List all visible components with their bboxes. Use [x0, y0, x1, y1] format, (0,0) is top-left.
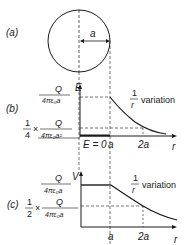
panel-c-label: (c) [7, 199, 19, 210]
x-tick-a-b: a [108, 139, 114, 150]
v-low-den: 4πε₀a [45, 211, 64, 218]
x-tick-2a-b: 2a [137, 139, 150, 150]
panel-b-label: (b) [6, 103, 18, 114]
v-curve [111, 185, 177, 220]
annot-c-num: 1 [133, 173, 138, 183]
v-low-prefix-den: 2 [27, 209, 32, 219]
e-low-prefix-num: 1 [25, 118, 30, 128]
annot-b-num: 1 [132, 88, 137, 98]
r-axis-arrow-c-icon [172, 225, 177, 229]
v-top-den: 4πε₀a [44, 187, 63, 194]
v-low-num: Q [56, 197, 63, 207]
radius-label: a [90, 28, 96, 39]
annot-c-text: variation [142, 180, 176, 190]
v-low-prefix-num: 1 [27, 197, 32, 207]
annot-b-text: variation [141, 95, 175, 105]
panel-a-label: (a) [6, 27, 18, 38]
panel-c: V r (c) Q 4πε₀a 1 2 × Q 4πε₀a a 2a 1 r v… [7, 171, 178, 245]
r-axis-label-c: r [174, 234, 178, 245]
v-axis-label: V [72, 171, 80, 182]
e-top-num: Q [55, 84, 62, 94]
e-top-den: 4πε₀a [42, 97, 61, 104]
v-axis-arrow-icon [79, 171, 83, 176]
v-top-num: Q [55, 173, 62, 183]
e-axis-label: E [75, 82, 82, 93]
v-low-times: × [35, 203, 40, 213]
e-low-den: 4πε₀a² [41, 132, 63, 139]
e-low-times: × [33, 124, 38, 134]
r-axis-arrow-b-icon [172, 134, 177, 138]
e-zero-label: E = 0 [83, 139, 107, 150]
annot-b-den: r [131, 100, 135, 110]
charged-sphere-diagram: a (a) E r (b) Q 4πε₀a 1 4 × Q 4πε₀a² E =… [0, 0, 186, 245]
x-tick-2a-c: 2a [137, 231, 150, 242]
e-low-num: Q [55, 118, 62, 128]
annot-c-den: r [132, 185, 136, 195]
arrowhead-right-icon [106, 39, 110, 43]
x-tick-a-c: a [108, 231, 114, 242]
panel-b: E r (b) Q 4πε₀a 1 4 × Q 4πε₀a² E = 0 a 2… [6, 82, 177, 152]
arrowhead-left-icon [80, 39, 84, 43]
e-low-prefix-den: 4 [25, 130, 30, 140]
r-axis-label-b: r [172, 141, 176, 152]
